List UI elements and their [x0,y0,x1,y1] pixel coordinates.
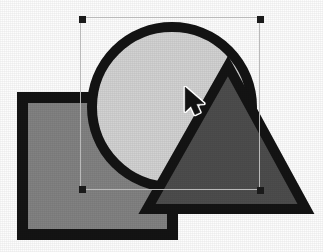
artboard[interactable] [0,0,323,252]
mouse-pointer-cursor [183,86,209,118]
drawing-canvas[interactable] [0,0,323,252]
handle-bottom-right[interactable] [257,187,264,194]
handle-top-right[interactable] [257,16,264,23]
handle-bottom-left[interactable] [79,186,86,193]
handle-top-left[interactable] [79,16,86,23]
